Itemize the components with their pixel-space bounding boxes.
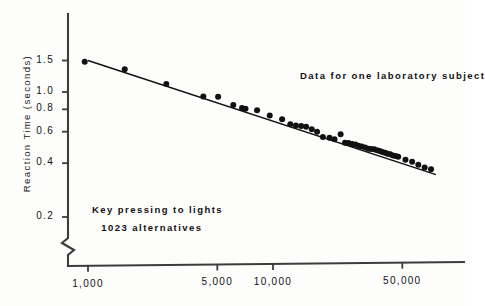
data-point (293, 122, 299, 128)
y-tick-label: 0.4 (6, 156, 54, 167)
x-axis-line (68, 262, 465, 266)
data-point (402, 157, 408, 163)
y-tick-label: 0.6 (6, 125, 54, 136)
data-point (267, 112, 273, 118)
data-point (428, 166, 434, 172)
data-point (422, 165, 428, 171)
data-point (279, 116, 285, 122)
x-tick-label: 10,000 (228, 276, 318, 287)
data-point (254, 107, 260, 113)
axes (62, 14, 465, 272)
data-point (309, 126, 315, 132)
annotation-subject-note: Data for one laboratory subject (300, 70, 485, 81)
data-point (332, 136, 338, 142)
data-point (314, 129, 320, 135)
y-tick-label: 1.0 (6, 85, 54, 96)
annotation-task-note: Key pressing to lights (92, 204, 223, 215)
data-point (415, 162, 421, 168)
data-point (320, 134, 326, 140)
data-point (82, 59, 88, 65)
x-tick-label: 1,000 (43, 278, 133, 289)
data-point (395, 154, 401, 160)
data-point (230, 102, 236, 108)
annotation-alternatives-note: 1023 alternatives (101, 222, 202, 233)
data-point (122, 66, 128, 72)
data-point (200, 93, 206, 99)
y-tick-label: 0.8 (6, 102, 54, 113)
y-tick-label: 1.5 (6, 54, 54, 65)
data-point (287, 121, 293, 127)
y-tick-label: 0.2 (6, 210, 54, 221)
data-point (242, 106, 248, 112)
x-tick-label: 50,000 (357, 275, 447, 286)
data-point (409, 159, 415, 165)
data-point (163, 81, 169, 87)
data-point (303, 124, 309, 130)
data-point (215, 94, 221, 100)
y-axis-line (62, 14, 74, 266)
data-point (338, 131, 344, 137)
